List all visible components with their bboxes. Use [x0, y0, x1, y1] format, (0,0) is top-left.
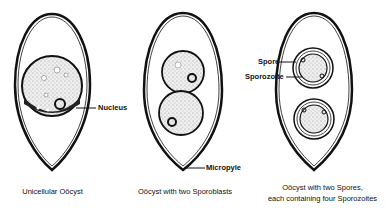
sporozoite-label: Sporozoite — [245, 72, 284, 81]
micropyle-label: Micropyle — [206, 163, 241, 172]
nucleus-label: Nucleus — [98, 103, 127, 112]
sporoblast-oocyst — [144, 13, 222, 170]
sporoblast — [162, 51, 204, 93]
sporoblast — [159, 91, 203, 135]
spore-oocyst — [276, 13, 352, 170]
spore-label: Spore — [258, 57, 279, 66]
unicellular-oocyst — [15, 14, 96, 170]
oocyst-wall — [276, 13, 352, 170]
caption-unicellular: Unicellular Oöcyst — [5, 187, 100, 196]
caption-spores-line2: each containing four Sporozoites — [255, 194, 390, 203]
caption-spores-line1: Oöcyst with two Spores, — [255, 183, 390, 192]
caption-sporoblasts: Oöcyst with two Sporoblasts — [130, 187, 240, 196]
